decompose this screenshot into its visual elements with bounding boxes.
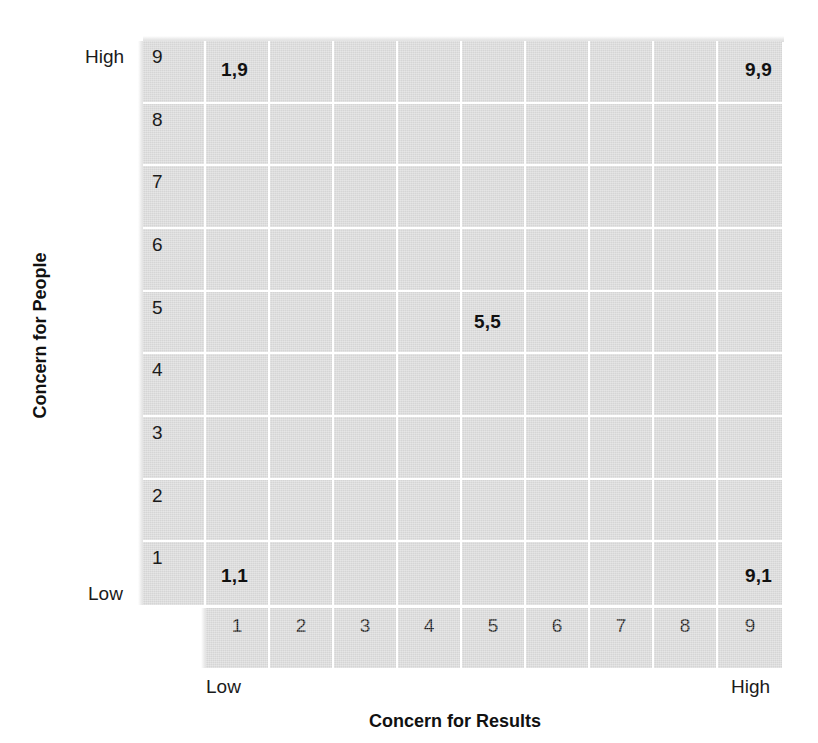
grid-cell (462, 41, 526, 104)
grid-cell (526, 229, 590, 292)
point-label-5-5: 5,5 (474, 312, 501, 331)
x-tick-cell: 7 (590, 608, 654, 668)
x-tick-cell: 1 (206, 608, 270, 668)
grid-cell (398, 292, 462, 355)
y-label-cell: 8 (143, 104, 206, 167)
grid-cell (462, 354, 526, 417)
grid-cell (270, 229, 334, 292)
x-tick-cell: 3 (334, 608, 398, 668)
grid-cell (270, 417, 334, 480)
x-tick-cell: 4 (398, 608, 462, 668)
y-tick-8: 8 (152, 110, 163, 129)
grid-cell (206, 480, 270, 543)
y-label-cell: 9 (143, 41, 206, 104)
y-label-cell: 5 (143, 292, 206, 355)
grid-cell (206, 104, 270, 167)
y-label-cell: 3 (143, 417, 206, 480)
grid-cell (526, 480, 590, 543)
grid-cell (718, 480, 782, 543)
grid-cell (590, 480, 654, 543)
grid-cell (654, 417, 718, 480)
y-label-cell: 1 (143, 542, 206, 605)
y-tick-3: 3 (152, 423, 163, 442)
grid-cell (590, 41, 654, 104)
grid-cell (398, 229, 462, 292)
grid-cell (206, 229, 270, 292)
grid-cell (654, 354, 718, 417)
y-tick-1: 1 (152, 548, 163, 567)
y-label-cell: 7 (143, 166, 206, 229)
grid-cell (462, 417, 526, 480)
managerial-grid-figure: High Low Concern for People 9 1,9 9,9 8 (0, 0, 818, 743)
grid-cell (334, 41, 398, 104)
point-label-9-1: 9,1 (745, 566, 772, 585)
grid-cell: 9,1 (718, 542, 782, 605)
grid-cell (526, 166, 590, 229)
grid-cell (718, 229, 782, 292)
grid-cell (334, 542, 398, 605)
grid-cell (334, 480, 398, 543)
grid-cell (526, 104, 590, 167)
x-axis-low-label: Low (206, 676, 241, 698)
y-tick-6: 6 (152, 235, 163, 254)
x-tick-cell: 2 (270, 608, 334, 668)
point-label-1-9: 1,9 (221, 60, 248, 79)
grid-cell (462, 166, 526, 229)
y-label-cell: 6 (143, 229, 206, 292)
grid-cell: 5,5 (462, 292, 526, 355)
grid-cell (334, 292, 398, 355)
grid-cell (206, 417, 270, 480)
grid-cell (590, 229, 654, 292)
y-tick-4: 4 (152, 360, 163, 379)
grid-cell (718, 354, 782, 417)
grid-cell (590, 166, 654, 229)
grid-cell (270, 166, 334, 229)
grid-cell (398, 480, 462, 543)
y-label-cell: 2 (143, 480, 206, 543)
grid-cell (654, 480, 718, 543)
grid-cell (462, 104, 526, 167)
grid-cell (654, 166, 718, 229)
grid-cell (718, 104, 782, 167)
grid-cell (270, 41, 334, 104)
grid-cell (590, 104, 654, 167)
x-tick-cell: 5 (462, 608, 526, 668)
grid-cell (462, 229, 526, 292)
grid-cell (654, 41, 718, 104)
grid-cell (270, 354, 334, 417)
grid-cell (718, 292, 782, 355)
grid-cell (654, 104, 718, 167)
grid-cell (334, 104, 398, 167)
grid-cell (654, 542, 718, 605)
grid-cell (206, 292, 270, 355)
grid-cell (206, 166, 270, 229)
y-axis-title: Concern for People (30, 181, 51, 491)
grid-cell (526, 542, 590, 605)
grid-cell (654, 292, 718, 355)
grid-cell (590, 417, 654, 480)
grid-cell (526, 354, 590, 417)
x-axis-high-label: High (731, 676, 770, 698)
grid-cell (654, 229, 718, 292)
grid-cell (398, 41, 462, 104)
grid-cell (270, 480, 334, 543)
grid-cell (334, 354, 398, 417)
y-axis-low-label: Low (88, 583, 123, 605)
y-tick-5: 5 (152, 298, 163, 317)
x-axis-number-strip: 1 2 3 4 5 6 7 8 9 (206, 608, 782, 668)
grid-cell: 1,9 (206, 41, 270, 104)
grid-table: 9 1,9 9,9 8 7 (143, 41, 782, 605)
grid-cell (334, 417, 398, 480)
grid-cell (590, 292, 654, 355)
y-tick-7: 7 (152, 172, 163, 191)
y-tick-2: 2 (152, 486, 163, 505)
grid-cell (398, 354, 462, 417)
grid-cell (398, 104, 462, 167)
grid-cell: 1,1 (206, 542, 270, 605)
grid-cell (462, 480, 526, 543)
y-label-cell: 4 (143, 354, 206, 417)
grid-cell (270, 292, 334, 355)
point-label-9-9: 9,9 (745, 60, 772, 79)
x-tick-cell: 8 (654, 608, 718, 668)
grid-cell (526, 292, 590, 355)
